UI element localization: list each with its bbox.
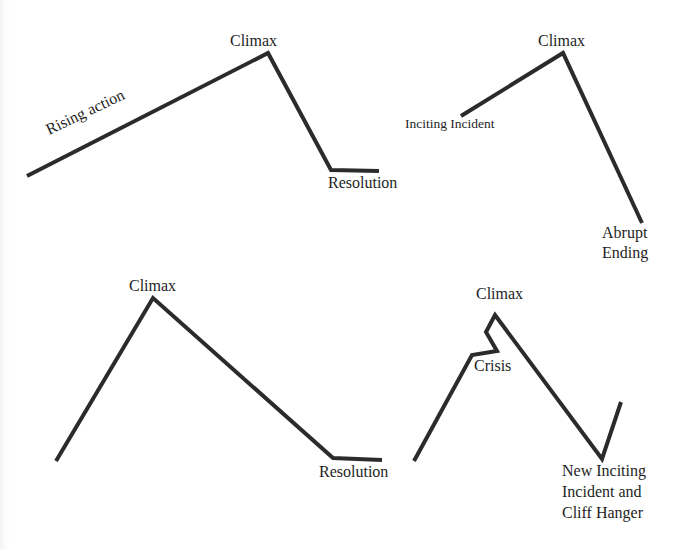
plot-line-steep-rise [56, 298, 382, 461]
label-inciting-incident: Inciting Incident [405, 116, 495, 131]
label-cliff-hanger: Cliff Hanger [562, 504, 644, 522]
label-ending: Ending [602, 244, 648, 262]
panel-abrupt-ending: Inciting Incident Climax Abrupt Ending [405, 32, 648, 262]
panel-crisis-cliffhanger: Climax Crisis New Inciting Incident and … [414, 285, 646, 522]
plot-line-crisis-cliffhanger [414, 315, 621, 461]
label-climax: Climax [230, 32, 277, 49]
label-incident-and: Incident and [562, 483, 642, 500]
panel-steep-rise: Climax Resolution [56, 277, 388, 480]
label-resolution: Resolution [328, 174, 397, 191]
plot-structure-diagrams: Rising action Climax Resolution Inciting… [0, 0, 690, 549]
label-abrupt: Abrupt [602, 224, 648, 242]
panel-classic-arc: Rising action Climax Resolution [27, 32, 397, 191]
label-climax: Climax [129, 277, 176, 294]
diagram-page: Rising action Climax Resolution Inciting… [0, 0, 690, 549]
plot-line-abrupt-ending [461, 53, 642, 223]
label-new-inciting: New Inciting [562, 462, 646, 480]
label-crisis: Crisis [474, 357, 511, 374]
label-climax: Climax [538, 32, 585, 49]
label-climax: Climax [476, 285, 523, 302]
label-resolution: Resolution [319, 463, 388, 480]
